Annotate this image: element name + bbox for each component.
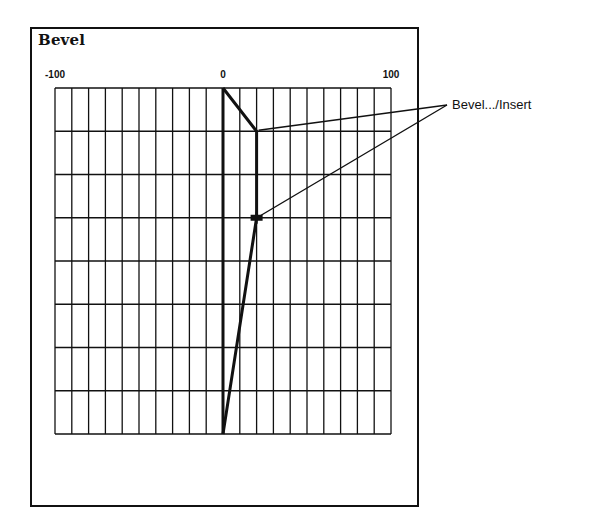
callout-label: Bevel.../Insert (452, 97, 531, 112)
callout-leader-line (259, 105, 447, 217)
bevel-profile-editor[interactable] (0, 0, 600, 530)
callout-lines (259, 105, 447, 217)
profile-node-handle-cross (256, 212, 258, 224)
callout-leader-line (259, 105, 447, 130)
